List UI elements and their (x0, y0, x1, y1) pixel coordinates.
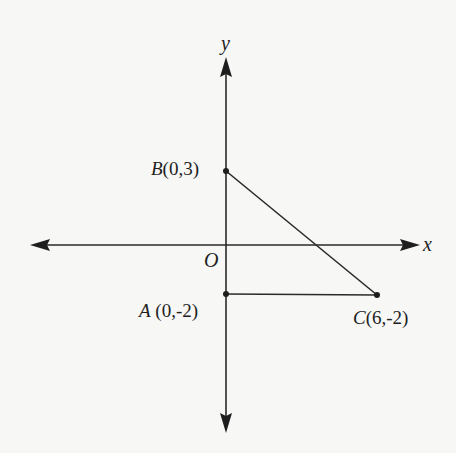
segment-bc (226, 171, 377, 295)
point-b-coords: (0,3) (163, 158, 199, 179)
point-c-name: C (353, 307, 366, 328)
point-a-dot (223, 291, 229, 297)
point-a-name: A (139, 300, 151, 321)
x-axis-left-arrow-icon (30, 239, 50, 251)
segment-ac (226, 294, 377, 295)
y-axis-label: y (221, 33, 230, 53)
point-a-coords: (0,-2) (155, 300, 198, 321)
point-b-name: B (151, 158, 163, 179)
origin-label: O (204, 250, 218, 270)
point-b-dot (223, 168, 229, 174)
point-c-label: C(6,-2) (353, 308, 408, 327)
point-a-label: A (0,-2) (139, 301, 198, 320)
diagram-graphics (0, 0, 456, 453)
point-b-label: B(0,3) (151, 159, 199, 178)
x-axis-right-arrow-icon (400, 239, 420, 251)
y-axis-up-arrow-icon (220, 57, 232, 77)
point-c-coords: (6,-2) (366, 307, 409, 328)
y-axis-down-arrow-icon (220, 413, 232, 433)
x-axis-label: x (423, 234, 432, 254)
point-c-dot (374, 292, 380, 298)
coordinate-plane-diagram: y x O B(0,3) A (0,-2) C(6,-2) (0, 0, 456, 453)
